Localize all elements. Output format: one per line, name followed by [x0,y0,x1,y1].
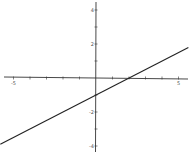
x-tick-label: -5 [11,80,16,86]
data-series [0,47,188,144]
series-line [0,47,188,144]
y-tick-label: 2 [91,41,94,47]
x-tick-label: 5 [177,80,180,86]
axes [4,2,188,152]
line-chart: -5542-2-4 [0,0,190,152]
y-tick-label: -4 [89,143,94,149]
y-tick-label: -2 [89,109,94,115]
y-tick-label: 4 [91,7,94,13]
y-axis [96,2,97,152]
